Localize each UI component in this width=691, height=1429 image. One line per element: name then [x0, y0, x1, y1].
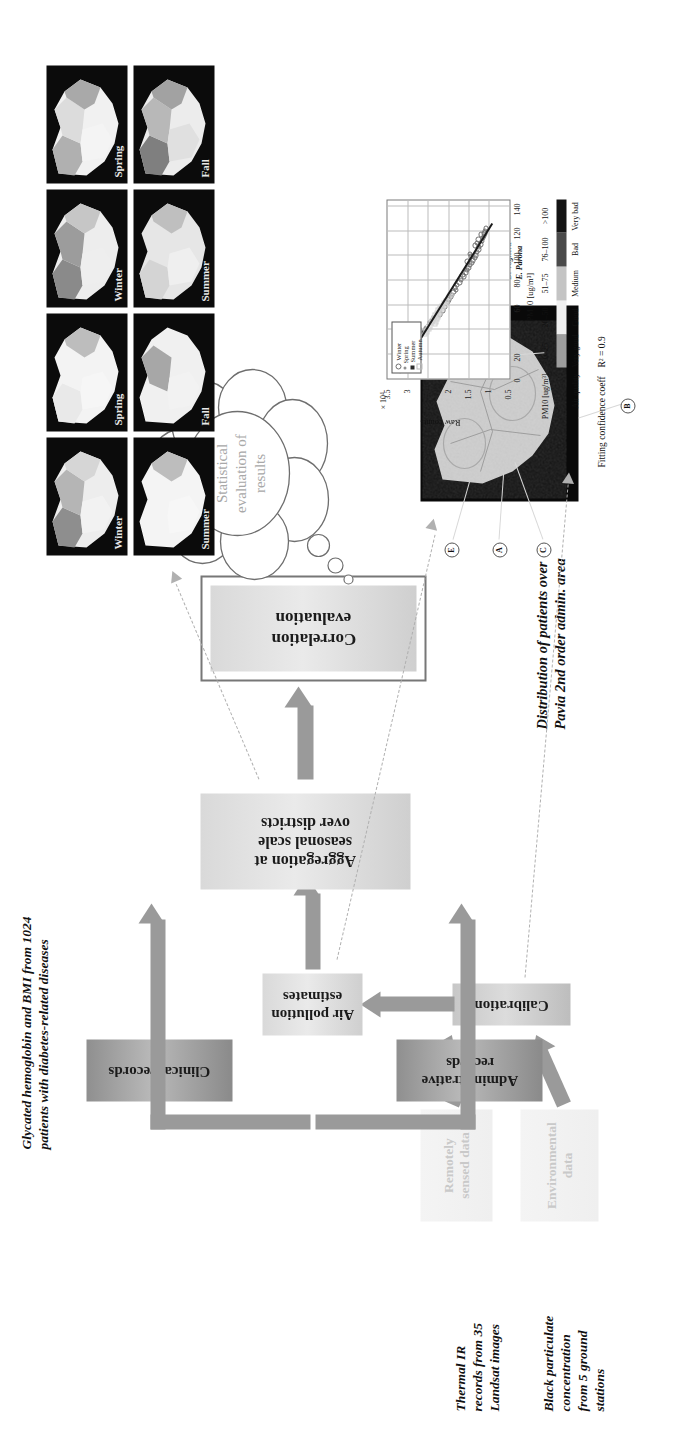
- season-map-grid: Winter Spring Winter: [46, 65, 216, 555]
- season-label: Spring: [111, 145, 123, 177]
- season-label: Summer: [198, 261, 210, 301]
- figure-canvas: Thermal IRrecords from 35Landsat images …: [0, 0, 691, 1429]
- x-tick-20: 20: [512, 353, 521, 361]
- season-label: Winter: [111, 516, 123, 549]
- legend-marker-autumn: [416, 363, 422, 369]
- colorbar-quality-1: Good: [570, 301, 579, 333]
- colorbar-quality-2: Medium: [570, 264, 579, 302]
- colorbar-row2-label: Air quality: [570, 373, 579, 437]
- legend-marker-summer: [410, 365, 414, 369]
- connector-estimates-to-satellite-map-head: [425, 517, 439, 530]
- colorbar-segment-very-good: [556, 334, 566, 367]
- season-panel-summer-1[interactable]: Summer: [133, 437, 214, 555]
- box-label: Correlationevaluation: [271, 608, 356, 648]
- colorbar-quality-3: Bad: [570, 233, 579, 265]
- box-air-pollution-estimates[interactable]: Air pollutionestimates: [262, 973, 362, 1035]
- x-tick-0: 0: [512, 378, 521, 382]
- arrow-clinical-elbow-h: [150, 919, 165, 1129]
- season-panel-winter-1[interactable]: Winter: [46, 437, 127, 555]
- x-tick-140: 140: [512, 203, 521, 215]
- y-axis-label: Raw counts: [420, 417, 460, 427]
- caption-clinical: Glycated hemoglobin and BMI from 1024pat…: [18, 729, 52, 1149]
- arrow-admin-elbow-v: [315, 1114, 475, 1129]
- box-label: Aggregation atseasonal scaleover distric…: [254, 813, 355, 870]
- colorbar-segment-very-bad: [556, 199, 566, 232]
- y-tick-2: 2: [443, 389, 452, 393]
- box-correlation-evaluation[interactable]: Correlationevaluation: [210, 585, 416, 671]
- legend-marker-winter: [395, 363, 401, 369]
- y-tick-1: 1: [483, 389, 492, 393]
- scatter-plot-axes[interactable]: Winter Spring Summer Autumn: [386, 199, 510, 379]
- colorbar-range-0: 0–25: [540, 334, 549, 367]
- colorbar-quality-4: Very bad: [570, 197, 579, 235]
- box-label: Calibration: [474, 995, 548, 1013]
- colorbar-range-4: >100: [540, 199, 549, 232]
- y-tick-3.5: 3.5: [382, 389, 391, 399]
- scatter-plot-panel: [596, 133, 682, 463]
- arrow-aggregation-to-correlation-head: [284, 686, 312, 707]
- box-label: Air pollutionestimates: [271, 986, 354, 1021]
- colorbar: [556, 199, 566, 367]
- y-tick-1.5: 1.5: [463, 389, 472, 399]
- arrow-admin-elbow-h: [460, 919, 475, 1129]
- box-environmental-data[interactable]: Environmentaldata: [520, 1109, 598, 1221]
- x-axis-label: PM10 [ug/m³]: [524, 272, 534, 321]
- colorbar-segment-medium: [556, 266, 566, 300]
- season-label: Spring: [111, 393, 123, 425]
- y-tick-2.5: 2.5: [422, 389, 431, 399]
- scatter-point: [453, 287, 458, 292]
- legend-label-spring: Spring: [401, 346, 408, 363]
- thought-cloud-text: Statisticalevaluation ofresults: [212, 403, 268, 543]
- season-panel-fall-2[interactable]: Fall: [133, 65, 214, 183]
- marker-label: C: [538, 547, 547, 553]
- marker-label: A: [494, 547, 503, 553]
- colorbar-row1-label: PM10 [ug/m³]: [540, 373, 549, 437]
- fit-r2: R² = 0.9: [596, 336, 606, 367]
- colorbar-range-2: 51–75: [540, 266, 549, 300]
- map-marker-e[interactable]: E: [444, 542, 459, 557]
- season-panel-winter-2[interactable]: Winter: [46, 189, 127, 307]
- arrow-estimates-to-aggregation: [305, 893, 320, 969]
- legend-label-summer: Summer: [408, 340, 415, 362]
- y-tick-3: 3: [402, 389, 411, 393]
- x-tick-100: 100: [512, 252, 521, 264]
- arrow-admin-elbow-head: [448, 903, 474, 923]
- season-label: Fall: [198, 159, 210, 177]
- connector-calibration-to-scatter-head: [562, 471, 575, 483]
- season-panel-summer-2[interactable]: Summer: [133, 189, 214, 307]
- map-marker-a[interactable]: A: [492, 542, 507, 557]
- x-tick-80: 80: [512, 279, 521, 287]
- arrow-clinical-elbow-v: [150, 1114, 310, 1129]
- marker-label: E: [446, 547, 455, 552]
- colorbar-range-1: 26–50: [540, 300, 549, 334]
- arrow-clinical-elbow-head: [138, 903, 164, 923]
- season-label: Fall: [198, 407, 210, 425]
- season-panel-fall-1[interactable]: Fall: [133, 313, 214, 431]
- legend-label-autumn: Autumn: [415, 339, 422, 360]
- season-panel-spring-2[interactable]: Spring: [46, 65, 127, 183]
- box-label: Remotelysensed data: [440, 1132, 472, 1198]
- legend-label-winter: Winter: [394, 342, 401, 360]
- season-panel-spring-1[interactable]: Spring: [46, 313, 127, 431]
- x-tick-40: 40: [512, 328, 521, 336]
- colorbar-quality-0: Very good: [570, 332, 579, 369]
- season-label: Winter: [111, 268, 123, 301]
- colorbar-segment-good: [556, 300, 566, 334]
- arrow-aggregation-to-correlation: [297, 705, 313, 779]
- colorbar-segment-bad: [556, 232, 566, 266]
- y-tick-0.5: 0.5: [503, 389, 512, 399]
- season-label: Summer: [198, 509, 210, 549]
- caption-black-particulate: Black particulateconcentrationfrom 5 gro…: [540, 1221, 608, 1411]
- x-tick-60: 60: [512, 304, 521, 312]
- arrow-calibration-to-estimates-head: [360, 991, 380, 1017]
- scatter-legend[interactable]: Winter Spring Summer Autumn: [391, 321, 421, 373]
- arrow-calibration-to-estimates: [378, 996, 454, 1011]
- colorbar-range-3: 76–100: [540, 232, 549, 266]
- box-label: Environmentaldata: [543, 1122, 575, 1209]
- caption-thermal-ir: Thermal IRrecords from 35Landsat images: [452, 1221, 503, 1411]
- legend-marker-spring: [403, 366, 406, 369]
- fit-title: Fitting confidence coeff: [596, 376, 606, 467]
- box-aggregation[interactable]: Aggregation atseasonal scaleover distric…: [200, 793, 410, 889]
- x-tick-120: 120: [512, 227, 521, 239]
- map-marker-c[interactable]: C: [536, 542, 551, 557]
